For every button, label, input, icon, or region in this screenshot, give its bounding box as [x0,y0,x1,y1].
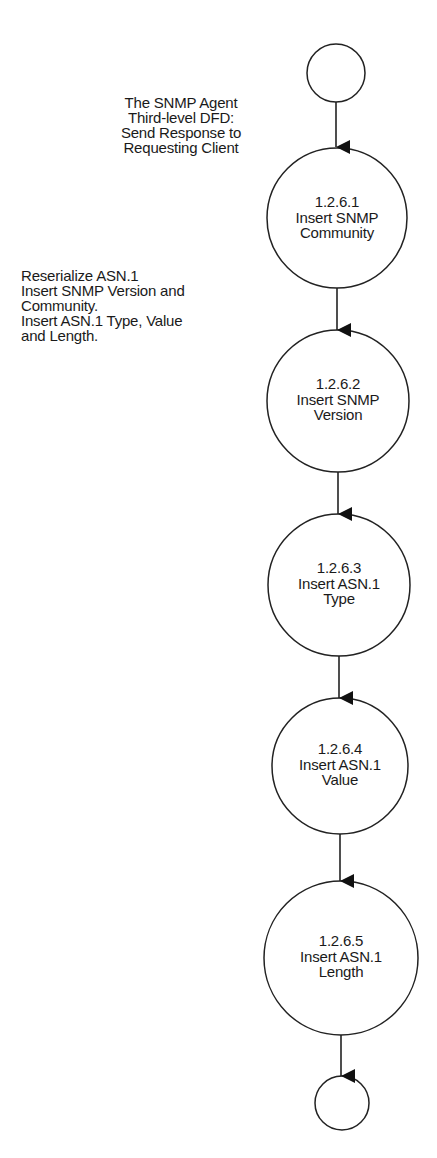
title-line: Requesting Client [92,140,270,155]
process-name: Length [271,964,411,980]
diagram-title: The SNMP Agent Third-level DFD: Send Res… [92,95,270,155]
process-label-1-2-6-5: 1.2.6.5 Insert ASN.1 Length [271,933,411,980]
start-terminal [307,44,365,102]
diagram-annotation: Reserialize ASN.1 Insert SNMP Version an… [21,268,261,343]
process-name: Insert ASN.1 [270,757,410,773]
process-name: Insert SNMP [268,392,408,408]
process-number: 1.2.6.3 [269,560,409,576]
process-label-1-2-6-2: 1.2.6.2 Insert SNMP Version [268,376,408,423]
annotation-line: Reserialize ASN.1 [21,268,261,283]
process-label-1-2-6-4: 1.2.6.4 Insert ASN.1 Value [270,741,410,788]
process-name: Version [268,407,408,423]
process-number: 1.2.6.2 [268,376,408,392]
process-label-1-2-6-3: 1.2.6.3 Insert ASN.1 Type [269,560,409,607]
process-number: 1.2.6.1 [267,194,407,210]
title-line: Send Response to [92,125,270,140]
annotation-line: and Length. [21,328,261,343]
annotation-line: Insert SNMP Version and [21,283,261,298]
process-name: Insert SNMP [267,210,407,226]
title-line: Third-level DFD: [92,110,270,125]
annotation-line: Community. [21,298,261,313]
process-name: Community [267,225,407,241]
annotation-line: Insert ASN.1 Type, Value [21,313,261,328]
end-terminal [315,1076,369,1130]
process-number: 1.2.6.4 [270,741,410,757]
process-number: 1.2.6.5 [271,933,411,949]
process-name: Insert ASN.1 [269,576,409,592]
process-name: Insert ASN.1 [271,949,411,965]
title-line: The SNMP Agent [92,95,270,110]
process-label-1-2-6-1: 1.2.6.1 Insert SNMP Community [267,194,407,241]
process-name: Type [269,591,409,607]
process-name: Value [270,772,410,788]
